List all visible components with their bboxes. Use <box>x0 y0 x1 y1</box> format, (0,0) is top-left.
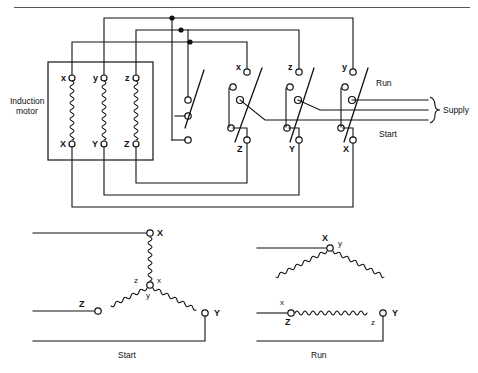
motor-terminal-y-top <box>101 75 107 81</box>
supply-label: Supply <box>443 105 470 115</box>
delta-label-y: y <box>338 239 342 248</box>
pole-1-pivot-contact[interactable] <box>185 97 191 103</box>
pole-2-label-Z: Z <box>237 144 243 154</box>
motor-return-wires <box>72 143 353 207</box>
delta-caption: Run <box>311 350 327 360</box>
pole-4-label-y: y <box>342 62 347 72</box>
star-centre-label-x: x <box>157 276 161 285</box>
star-delta-starter-diagram: Induction motor x X y Y z Z <box>0 0 478 373</box>
pole-3-label-Y: Y <box>289 144 295 154</box>
pole-2-terminal-Z[interactable] <box>244 137 250 143</box>
switch-pole-4[interactable]: y X <box>338 62 368 154</box>
supply-line-2 <box>298 100 428 110</box>
start-label: Start <box>379 129 398 139</box>
star-terminal-Z <box>95 308 101 314</box>
switch-pole-2[interactable]: x Z <box>228 62 262 154</box>
motor-label-Z: Z <box>124 139 130 149</box>
pole-4-contact-upper[interactable] <box>342 84 348 90</box>
pole-3-blade[interactable] <box>290 68 314 142</box>
motor-terminal-Y-bottom <box>101 141 107 147</box>
star-label-Z: Z <box>79 299 85 309</box>
delta-coil-right <box>333 251 384 278</box>
motor-label-x: x <box>61 73 66 83</box>
motor-label-z: z <box>125 73 130 83</box>
star-caption: Start <box>118 350 137 360</box>
star-coil-right <box>153 288 196 310</box>
motor-terminal-z-top <box>133 75 139 81</box>
run-label: Run <box>376 78 392 88</box>
pole-4-terminal-X[interactable] <box>350 137 356 143</box>
pole-3-terminal-z[interactable] <box>296 69 302 75</box>
delta-label-z: z <box>371 318 375 327</box>
motor-terminal-X-bottom <box>69 141 75 147</box>
delta-coil-left <box>276 251 327 278</box>
pole-1-contact-lower[interactable] <box>185 137 191 143</box>
delta-terminal-top <box>327 245 333 251</box>
star-coil-top <box>148 237 152 281</box>
pole-4-terminal-y[interactable] <box>350 69 356 75</box>
pole-3-terminal-Y[interactable] <box>296 137 302 143</box>
motor-label-Y: Y <box>92 139 98 149</box>
switch-pole-3[interactable]: z Y <box>284 62 314 154</box>
delta-connection-diagram: X y x Z Y z Run <box>257 233 398 360</box>
pole-2-contact-upper[interactable] <box>230 84 236 90</box>
motor-terminal-x-top <box>69 75 75 81</box>
figure-canvas: Induction motor x X y Y z Z <box>0 0 478 373</box>
star-terminal-Y <box>202 310 208 316</box>
star-centre-label-z: z <box>134 276 138 285</box>
delta-label-Z: Z <box>285 317 291 327</box>
motor-label-line1: Induction <box>10 96 45 106</box>
star-centre-node <box>147 282 153 288</box>
pole-2-terminal-x[interactable] <box>244 69 250 75</box>
star-connection-diagram: X z x y Z Y Start <box>33 228 220 360</box>
motor-winding-1: x X <box>60 73 75 149</box>
delta-label-Y: Y <box>392 308 398 318</box>
motor-label-line2: motor <box>16 106 38 116</box>
delta-terminal-left <box>288 310 294 316</box>
supply-brace <box>430 97 440 123</box>
pole-4-label-X: X <box>343 144 349 154</box>
delta-line-run <box>257 316 383 341</box>
motor-winding-3: z Z <box>124 73 139 149</box>
star-coil-left <box>111 288 147 307</box>
star-label-Y: Y <box>214 308 220 318</box>
star-centre-label-y: y <box>146 291 150 300</box>
pole-3-label-z: z <box>288 62 293 72</box>
pole-2-blade[interactable] <box>235 68 262 142</box>
motor-terminal-Z-bottom <box>133 141 139 147</box>
motor-winding-2: y Y <box>92 73 107 149</box>
pole-3-contact-upper[interactable] <box>287 84 293 90</box>
delta-coil-bottom <box>295 311 367 315</box>
junction-dot-3 <box>187 39 192 44</box>
star-label-X: X <box>157 228 163 238</box>
motor-label-X: X <box>60 139 66 149</box>
pole-4-blade[interactable] <box>344 68 368 142</box>
delta-label-x: x <box>280 298 284 307</box>
pole-2-label-x: x <box>236 62 241 72</box>
delta-terminal-right <box>380 310 386 316</box>
junction-dot-2 <box>178 27 183 32</box>
star-terminal-X <box>147 230 153 236</box>
motor-label-y: y <box>93 73 98 83</box>
junction-dot-1 <box>169 15 174 20</box>
star-line-Y <box>33 316 205 341</box>
delta-label-X: X <box>322 233 328 243</box>
